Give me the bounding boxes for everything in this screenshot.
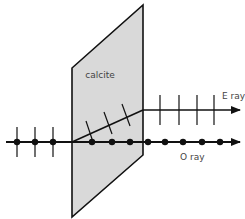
incident-ray [6,127,72,157]
polarization-dot [127,139,133,145]
o-ray-label: O ray [180,152,205,162]
polarization-dot [199,139,205,145]
polarization-dot [180,139,186,145]
polarization-dot [14,139,20,145]
diagram-canvas: calcite E ray O ray [0,0,245,219]
polarization-dot [162,139,168,145]
polarization-dot [32,139,38,145]
polarization-dot [109,139,115,145]
polarization-dot [145,139,151,145]
calcite-birefringence-diagram: calcite E ray O ray [0,0,245,219]
e-ray-label: E ray [222,91,245,101]
calcite-crystal [72,5,143,217]
polarization-dot [50,139,56,145]
polarization-dot [217,139,223,145]
calcite-label: calcite [85,70,115,80]
